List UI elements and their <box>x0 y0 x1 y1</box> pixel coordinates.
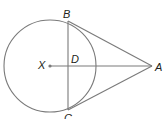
tangent-segment-ac <box>68 66 152 110</box>
label-c: C <box>64 112 72 119</box>
label-x: X <box>37 59 46 71</box>
center-point-x <box>48 64 51 67</box>
label-a: A <box>154 61 162 73</box>
tangent-segment-ab <box>68 21 152 66</box>
label-b: B <box>63 8 70 20</box>
geometry-diagram: B C X D A <box>0 0 168 119</box>
label-d: D <box>71 53 79 65</box>
